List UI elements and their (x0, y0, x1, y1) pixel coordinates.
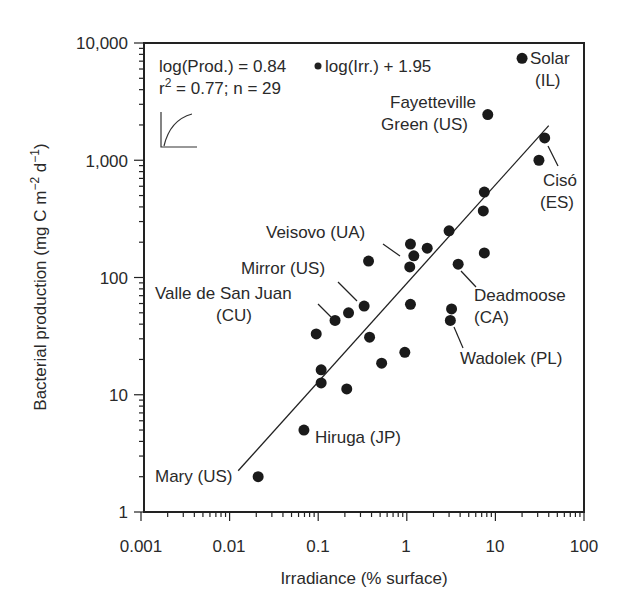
y-tick-labels: 10,000 1,000 100 10 1 (76, 34, 128, 522)
data-point (316, 364, 327, 375)
label-deadmoose-country: (CA) (474, 308, 509, 327)
saturation-curve-icon (161, 112, 197, 147)
data-point (446, 303, 457, 314)
label-mirror: Mirror (US) (241, 259, 325, 278)
label-fayetteville-country: Green (US) (381, 115, 468, 134)
point-labels: Solar (IL) Fayetteville Green (US) Cisó … (155, 49, 577, 486)
data-point (453, 259, 464, 270)
data-point (408, 250, 419, 261)
label-solar-country: (IL) (535, 71, 561, 90)
data-point (311, 328, 322, 339)
data-point (479, 247, 490, 258)
scatter-chart: 10,000 1,000 100 10 1 0.001 0.01 0.1 1 1… (0, 0, 632, 615)
data-point (404, 261, 415, 272)
label-veisovo: Veisovo (UA) (266, 223, 365, 242)
data-point (533, 155, 544, 166)
label-ciso-country: (ES) (540, 193, 574, 212)
multiply-dot (315, 63, 322, 70)
data-point (253, 471, 264, 482)
data-point (444, 225, 455, 236)
data-point (482, 109, 493, 120)
label-valle-country: (CU) (216, 306, 252, 325)
data-point (445, 315, 456, 326)
data-point (316, 377, 327, 388)
x-tick-0.01: 0.01 (212, 537, 245, 556)
y-axis-title: Bacterial production (mg C m−2 d−1) (28, 143, 50, 410)
axis-ticks (134, 43, 584, 521)
data-point (405, 239, 416, 250)
data-point (539, 132, 550, 143)
label-solar: Solar (530, 49, 570, 68)
data-point (343, 307, 354, 318)
data-point (478, 205, 489, 216)
data-point (341, 383, 352, 394)
y-tick-100: 100 (100, 269, 128, 288)
label-hiruga: Hiruga (JP) (315, 428, 401, 447)
data-point (363, 256, 374, 267)
x-axis-title: Irradiance (% surface) (280, 569, 447, 588)
label-mary: Mary (US) (155, 467, 232, 486)
regression-equation: log(Prod.) = 0.84 log(Irr.) + 1.95 r2 = … (159, 57, 431, 98)
data-point (399, 347, 410, 358)
y-tick-1: 1 (119, 503, 128, 522)
y-tick-1000: 1,000 (85, 152, 128, 171)
data-point (298, 425, 309, 436)
data-point (405, 299, 416, 310)
x-tick-100: 100 (570, 537, 598, 556)
label-ciso: Cisó (543, 171, 577, 190)
y-tick-10000: 10,000 (76, 34, 128, 53)
label-wadolek: Wadolek (PL) (460, 349, 562, 368)
equation-right: log(Irr.) + 1.95 (325, 57, 431, 76)
label-deadmoose: Deadmoose (474, 286, 566, 305)
leader-lines (318, 146, 558, 348)
equation-left: log(Prod.) = 0.84 (159, 57, 286, 76)
data-point (359, 301, 370, 312)
data-point (479, 187, 490, 198)
x-tick-labels: 0.001 0.01 0.1 1 10 100 (120, 537, 598, 556)
x-tick-1: 1 (401, 537, 410, 556)
y-tick-10: 10 (109, 386, 128, 405)
data-point (422, 243, 433, 254)
data-point (364, 332, 375, 343)
x-tick-0.001: 0.001 (120, 537, 163, 556)
r2-stats: r2 = 0.77; n = 29 (159, 76, 281, 98)
label-fayetteville: Fayetteville (390, 93, 476, 112)
data-point (376, 358, 387, 369)
x-tick-0.1: 0.1 (306, 537, 330, 556)
label-valle: Valle de San Juan (155, 284, 292, 303)
data-point (517, 53, 528, 64)
x-tick-10: 10 (486, 537, 505, 556)
